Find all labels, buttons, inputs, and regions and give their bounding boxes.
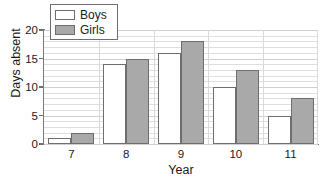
y-tick-label: 15 <box>4 53 38 65</box>
bar-girls-year-10 <box>236 70 259 144</box>
y-tick-mark <box>39 29 43 30</box>
x-tick-label-11: 11 <box>271 148 311 160</box>
bar-girls-year-8 <box>126 59 149 145</box>
y-tick-mark <box>39 58 43 59</box>
x-axis-title: Year <box>44 163 318 177</box>
y-tick-label: 0 <box>4 138 38 150</box>
x-tick-label-9: 9 <box>161 148 201 160</box>
bar-boys-year-10 <box>213 87 236 144</box>
y-tick-mark <box>39 115 43 116</box>
legend-item-boys: Boys <box>55 8 113 21</box>
gridline-vertical <box>263 30 264 144</box>
gridline-horizontal <box>44 144 318 145</box>
legend-swatch-boys-icon <box>55 10 75 20</box>
bar-girls-year-7 <box>71 133 94 144</box>
legend: Boys Girls <box>50 4 118 40</box>
y-tick-label: 20 <box>4 24 38 36</box>
bar-boys-year-8 <box>103 64 126 144</box>
gridline-vertical <box>154 30 155 144</box>
gridline-vertical <box>99 30 100 144</box>
legend-label-boys: Boys <box>80 9 107 21</box>
legend-swatch-girls-icon <box>55 25 75 35</box>
x-tick-label-10: 10 <box>216 148 256 160</box>
y-tick-mark <box>39 143 43 144</box>
bar-girls-year-9 <box>181 41 204 144</box>
bar-boys-year-11 <box>268 116 291 145</box>
bar-girls-year-11 <box>291 98 314 144</box>
x-tick-label-7: 7 <box>51 148 91 160</box>
bar-boys-year-7 <box>48 138 71 144</box>
y-tick-label: 10 <box>4 81 38 93</box>
legend-item-girls: Girls <box>55 23 113 36</box>
plot-area <box>44 30 318 144</box>
bar-chart: Days absent 05101520 7891011 Year Boys G… <box>0 0 328 182</box>
y-tick-mark <box>39 86 43 87</box>
y-tick-label: 5 <box>4 110 38 122</box>
gridline-vertical <box>317 30 318 144</box>
x-tick-label-8: 8 <box>106 148 146 160</box>
bar-boys-year-9 <box>158 53 181 144</box>
gridline-vertical <box>208 30 209 144</box>
legend-label-girls: Girls <box>80 24 105 36</box>
